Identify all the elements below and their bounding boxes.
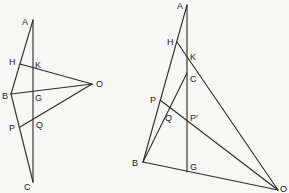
label-K: K <box>35 60 41 70</box>
label-C: C <box>24 182 31 192</box>
line-PO <box>160 100 278 190</box>
label-O: O <box>96 79 103 89</box>
line-PO <box>20 84 92 127</box>
label-Q: Q <box>36 120 43 130</box>
line-BO <box>11 84 92 94</box>
line-BC <box>11 94 33 182</box>
line-AB <box>143 5 187 162</box>
line-BO <box>143 162 278 190</box>
label-P-prime: P′ <box>190 113 198 123</box>
label-O: O <box>280 184 287 193</box>
label-G: G <box>190 162 197 172</box>
label-G: G <box>35 93 42 103</box>
label-B: B <box>2 91 8 101</box>
line-HO <box>20 64 92 84</box>
left-figure: A H K B G O P Q C <box>2 17 103 192</box>
label-A: A <box>22 17 28 27</box>
label-P: P <box>150 95 156 105</box>
label-Q: Q <box>165 113 172 123</box>
label-B: B <box>132 158 138 168</box>
label-K: K <box>190 52 196 62</box>
label-P: P <box>9 123 15 133</box>
right-figure: A H K C P Q P′ B G O <box>132 1 287 193</box>
diagram-svg: A H K B G O P Q C A H K C P Q P′ B G O <box>0 0 289 193</box>
label-H: H <box>9 57 16 67</box>
label-H: H <box>167 37 174 47</box>
label-C: C <box>190 74 197 84</box>
geometry-diagram: A H K B G O P Q C A H K C P Q P′ B G O <box>0 0 289 193</box>
label-A: A <box>177 1 183 11</box>
